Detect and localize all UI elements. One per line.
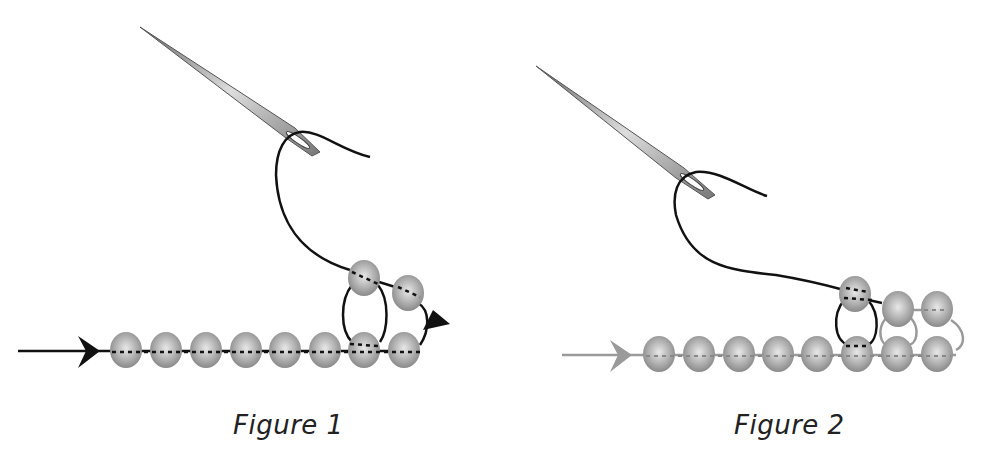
- needle-icon: [140, 27, 320, 156]
- bead-row-top: [839, 276, 953, 327]
- figure-1: Figure 1: [0, 0, 496, 449]
- figure-2-illustration: [496, 0, 992, 449]
- figure-2: Figure 2: [496, 0, 992, 449]
- figure-caption: Figure 1: [233, 410, 344, 440]
- thread: [18, 132, 427, 351]
- figure-1-illustration: [0, 0, 496, 449]
- needle-icon: [536, 66, 715, 199]
- figure-caption: Figure 2: [734, 410, 845, 440]
